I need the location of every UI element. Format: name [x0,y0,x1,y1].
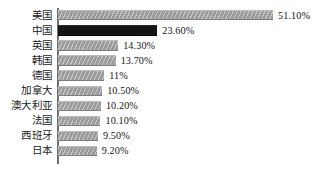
bar-wrapper [58,116,100,126]
bar [58,10,273,20]
value-label: 10.50% [107,86,139,96]
value-label: 23.60% [162,26,194,36]
value-label: 9.20% [102,146,129,156]
bar-wrapper [58,10,273,20]
bar [58,40,118,50]
category-label: 法国 [32,116,52,127]
bar-row: 日本9.20% [0,144,329,159]
category-label: 中国 [32,25,52,36]
category-label: 澳大利亚 [11,101,52,112]
bar-wrapper [58,146,97,156]
bar-row: 中国23.60% [0,23,329,38]
category-label: 西班牙 [21,131,52,142]
bar-wrapper [58,70,104,80]
bar-row: 德国11% [0,68,329,83]
bar [58,116,100,126]
category-label: 美国 [32,10,52,21]
bar [58,146,97,156]
value-label: 13.70% [121,56,153,66]
bar-wrapper [58,55,116,65]
value-label: 9.50% [103,131,130,141]
category-label: 加拿大 [21,86,52,97]
bar-highlight [58,25,157,35]
value-label: 10.10% [105,116,137,126]
bar [58,131,98,141]
bar-row: 加拿大10.50% [0,83,329,98]
category-label: 英国 [32,40,52,51]
bar-row: 澳大利亚10.20% [0,99,329,114]
bar-row: 法国10.10% [0,114,329,129]
bar [58,70,104,80]
category-label: 日本 [32,146,52,157]
value-label: 10.20% [106,101,138,111]
bar [58,101,101,111]
bar-row: 美国51.10% [0,8,329,23]
bar [58,86,102,96]
bar-row: 西班牙9.50% [0,129,329,144]
bar [58,55,116,65]
value-label: 51.10% [278,10,310,20]
bar-wrapper [58,101,101,111]
category-label: 韩国 [32,56,52,67]
bar-wrapper [58,86,102,96]
bar-row: 英国14.30% [0,38,329,53]
bar-wrapper [58,40,118,50]
value-label: 14.30% [123,41,155,51]
plot-area: 美国51.10%中国23.60%英国14.30%韩国13.70%德国11%加拿大… [0,8,329,166]
value-label: 11% [109,71,128,81]
horizontal-bar-chart: 美国51.10%中国23.60%英国14.30%韩国13.70%德国11%加拿大… [0,0,329,173]
bar-wrapper [58,25,157,35]
bar-row: 韩国13.70% [0,53,329,68]
category-label: 德国 [32,71,52,82]
bar-wrapper [58,131,98,141]
bar-rows-container: 美国51.10%中国23.60%英国14.30%韩国13.70%德国11%加拿大… [0,8,329,159]
